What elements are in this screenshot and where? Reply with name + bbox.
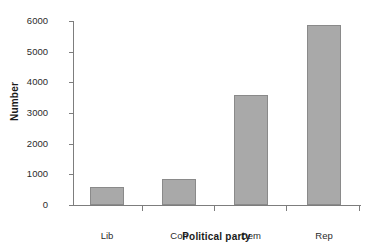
y-tick-0 (69, 205, 74, 206)
bar-chart: Number 6000 5000 4000 3000 2000 1000 0 L… (0, 0, 377, 252)
y-tick-6000 (69, 21, 74, 22)
y-tick-label-0: 0 (8, 199, 48, 210)
y-tick-1000 (69, 174, 74, 175)
y-tick-2000 (69, 144, 74, 145)
y-tick-4000 (69, 82, 74, 83)
y-tick-label-3000: 3000 (8, 107, 48, 118)
x-tick-2 (214, 206, 215, 211)
y-tick-label-5000: 5000 (8, 46, 48, 57)
y-tick-label-2000: 2000 (8, 138, 48, 149)
x-tick-4 (359, 206, 360, 211)
y-tick-3000 (69, 113, 74, 114)
x-axis-line (73, 205, 361, 206)
x-axis-title: Political party (73, 231, 360, 242)
y-tick-label-4000: 4000 (8, 76, 48, 87)
x-tick-3 (286, 206, 287, 211)
plot-area: 6000 5000 4000 3000 2000 1000 0 Lib Con … (73, 21, 360, 205)
bar-rep (307, 25, 341, 205)
y-tick-label-6000: 6000 (8, 15, 48, 26)
y-tick-label-1000: 1000 (8, 168, 48, 179)
y-tick-5000 (69, 52, 74, 53)
bar-dem (234, 95, 268, 205)
bar-lib (90, 187, 124, 205)
bar-con (162, 179, 196, 205)
x-tick-1 (142, 206, 143, 211)
